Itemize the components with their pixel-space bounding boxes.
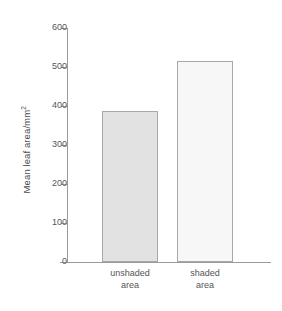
x-axis-line — [60, 262, 271, 263]
y-axis-title: Mean leaf area/mm2 — [22, 75, 32, 225]
y-axis-line — [67, 28, 68, 262]
y-tick-label: 600 — [31, 23, 67, 32]
y-tick-label: 400 — [31, 101, 67, 110]
bar — [177, 61, 233, 262]
x-axis-category-label: shaded area — [155, 268, 255, 291]
y-axis-title-superscript: 2 — [20, 106, 27, 110]
y-tick-label: 100 — [31, 218, 67, 227]
y-tick-label: 500 — [31, 62, 67, 71]
y-tick-label: 200 — [31, 179, 67, 188]
bar — [102, 111, 158, 262]
y-tick-label: 0 — [31, 257, 67, 266]
bar-chart: Mean leaf area/mm2 0100200300400500600 u… — [0, 0, 282, 311]
y-tick-label: 300 — [31, 140, 67, 149]
